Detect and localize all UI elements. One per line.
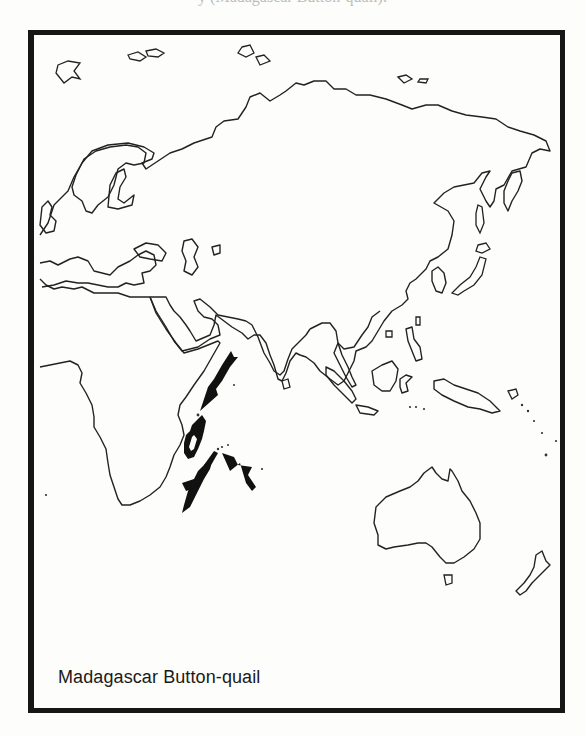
atlantic-dot xyxy=(45,494,47,496)
australia-coastline xyxy=(374,467,480,563)
arrow-north xyxy=(200,351,238,411)
island-dot xyxy=(261,468,263,470)
sakhalin xyxy=(476,205,484,233)
arctic-islands xyxy=(56,45,428,83)
arrow-southwest xyxy=(182,451,218,513)
borneo xyxy=(372,361,398,391)
philippines xyxy=(406,327,422,361)
hainan xyxy=(386,331,392,337)
india-coastline xyxy=(246,321,310,375)
new-zealand xyxy=(516,551,550,595)
africa-coastline xyxy=(40,297,220,505)
japan-hokkaido xyxy=(476,243,490,253)
aral-sea xyxy=(212,245,220,255)
caspian-sea xyxy=(182,239,198,275)
arabia-coastline xyxy=(150,297,246,351)
madagascar-range xyxy=(184,415,206,459)
seychelles-dot xyxy=(233,384,235,386)
new-guinea xyxy=(434,379,500,413)
comoros-dot xyxy=(197,414,200,417)
cropped-header-text: y (Madagascar Button-quail). xyxy=(0,0,585,8)
taiwan xyxy=(416,317,420,325)
arrow-southeast xyxy=(222,453,256,491)
java xyxy=(356,405,378,415)
tasmania xyxy=(444,575,452,585)
black-sea xyxy=(134,243,166,261)
map-title: Madagascar Button-quail xyxy=(58,667,260,688)
mauritius-dot xyxy=(221,446,223,448)
korea xyxy=(432,267,446,293)
sri-lanka xyxy=(282,379,290,389)
map-frame: Madagascar Button-quail xyxy=(28,30,565,713)
mediterranean-coast xyxy=(40,251,156,287)
kamchatka xyxy=(504,171,522,211)
reunion-dot xyxy=(217,448,219,450)
sulawesi xyxy=(400,375,412,393)
world-map xyxy=(34,35,560,708)
rodrigues-dot xyxy=(227,444,229,446)
japan-honshu xyxy=(452,257,486,295)
eurasia-coastline xyxy=(40,81,550,385)
